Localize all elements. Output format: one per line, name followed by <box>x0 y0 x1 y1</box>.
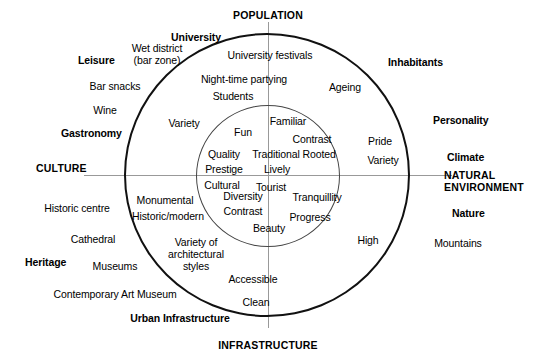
ring-item-accessible: Accessible <box>228 274 277 286</box>
outside-item-bar-snacks: Bar snacks <box>90 81 141 93</box>
category-heading-nature: Nature <box>452 208 485 220</box>
category-heading-leisure: Leisure <box>78 55 115 67</box>
category-heading-inhabitants: Inhabitants <box>388 57 443 69</box>
axis-heading-culture: CULTURE <box>36 163 87 175</box>
category-heading-urban-infrastructure: Urban Infrastructure <box>130 313 230 325</box>
ring-item-variety-arch-line1: Variety of <box>175 237 218 249</box>
category-heading-climate: Climate <box>447 152 484 164</box>
diagram-canvas: POPULATION INFRASTRUCTURE CULTURE NATURA… <box>0 0 536 360</box>
outside-item-cathedral: Cathedral <box>71 234 116 246</box>
ring-item-monumental: Monumental <box>137 195 194 207</box>
category-heading-gastronomy: Gastronomy <box>61 128 122 140</box>
ring-item-variety-left: Variety <box>168 118 199 130</box>
ring-item-variety-right: Variety <box>367 155 398 167</box>
core-item-prestige: Prestige <box>205 164 243 176</box>
core-item-progress: Progress <box>289 212 330 224</box>
core-item-traditional-rooted: Traditional Rooted <box>252 149 336 161</box>
axis-heading-natural-line2: ENVIRONMENT <box>444 182 524 194</box>
core-item-fun: Fun <box>234 127 252 139</box>
outside-item-wine: Wine <box>93 105 117 117</box>
core-item-tranquillity: Tranquillity <box>292 192 341 204</box>
ring-item-pride: Pride <box>368 136 392 148</box>
ring-item-students: Students <box>213 91 254 103</box>
ring-item-university-festivals: University festivals <box>228 50 313 62</box>
category-heading-heritage: Heritage <box>25 257 66 269</box>
ring-item-clean: Clean <box>243 297 270 309</box>
axis-heading-infrastructure: INFRASTRUCTURE <box>218 340 318 352</box>
outside-item-mountains: Mountains <box>434 238 482 250</box>
axis-heading-natural-line1: NATURAL <box>444 170 495 182</box>
outside-item-museums: Museums <box>93 261 138 273</box>
ring-item-variety-arch-line3: styles <box>183 261 209 273</box>
core-item-beauty: Beauty <box>253 223 285 235</box>
outside-item-wet-district-line2: (bar zone) <box>134 55 181 67</box>
outside-item-contemporary-art-museum: Contemporary Art Museum <box>53 289 176 301</box>
core-item-quality: Quality <box>208 149 240 161</box>
outside-item-historic-centre: Historic centre <box>44 203 110 215</box>
core-item-diversity: Diversity <box>223 191 262 203</box>
core-item-contrast-top: Contrast <box>293 134 332 146</box>
axis-heading-population: POPULATION <box>233 10 303 22</box>
ring-item-historic-modern: Historic/modern <box>132 211 204 223</box>
outside-item-wet-district-line1: Wet district <box>132 43 183 55</box>
ring-item-high: High <box>357 235 378 247</box>
ring-item-night-time-partying: Night-time partying <box>201 74 287 86</box>
core-item-contrast-bottom: Contrast <box>224 206 263 218</box>
ring-item-variety-arch-line2: architectural <box>168 249 224 261</box>
core-item-familiar: Familiar <box>270 116 307 128</box>
ring-item-ageing: Ageing <box>329 82 361 94</box>
category-heading-personality: Personality <box>433 115 489 127</box>
core-item-lively: Lively <box>264 164 290 176</box>
